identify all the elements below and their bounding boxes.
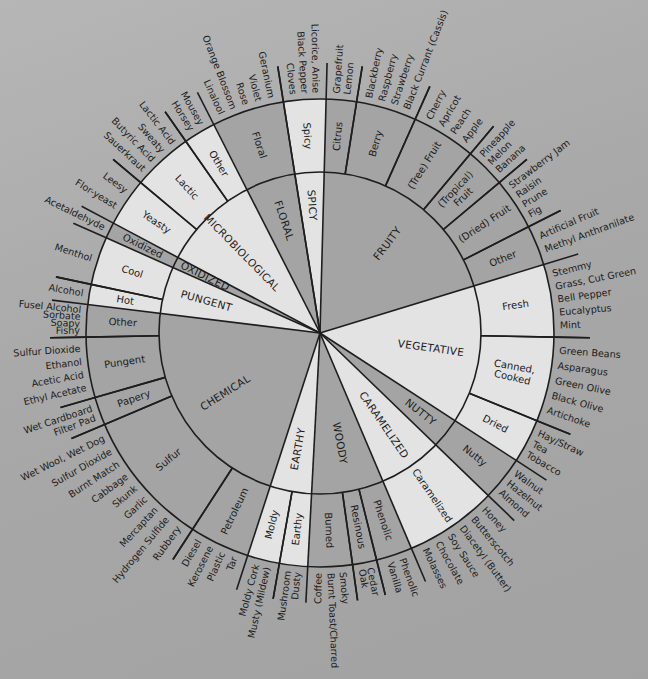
subcategory-label-spicy: Spicy: [301, 122, 314, 150]
aroma-term-licorice-anise: Licorice, Anise: [309, 24, 321, 94]
aroma-term-leesy: Leesy: [101, 170, 130, 195]
aroma-term-coffee: Coffee: [312, 573, 323, 604]
aroma-term-ethanol: Ethanol: [45, 356, 82, 371]
aroma-term-mint: Mint: [560, 319, 581, 331]
aroma-term-cloves: Cloves: [284, 62, 299, 95]
subcategory-label-burned: Burned: [323, 512, 336, 548]
aroma-term-sulfur-dioxide: Sulfur Dioxide: [13, 343, 81, 358]
aroma-term-smoky: Smoky: [337, 571, 351, 604]
term-divider: [50, 337, 86, 338]
aroma-term-green-beans: Green Beans: [559, 345, 621, 360]
aroma-term-asparagus: Asparagus: [557, 360, 609, 378]
term-divider: [357, 66, 363, 102]
aroma-term-alcohol: Alcohol: [48, 282, 84, 299]
aroma-wheel: SPICYSpicyClovesBlack PepperLicorice, An…: [0, 0, 648, 679]
term-divider: [306, 567, 308, 603]
term-divider: [326, 63, 327, 99]
aroma-term-tar: Tar: [224, 555, 240, 573]
subcategory-label-other: Other: [108, 316, 138, 329]
aroma-wheel-canvas: SPICYSpicyClovesBlack PepperLicorice, An…: [0, 0, 648, 679]
term-divider: [278, 66, 284, 102]
aroma-term-eucalyptus: Eucalyptus: [559, 302, 612, 317]
aroma-term-oak: Oak: [357, 568, 371, 589]
aroma-term-lemon: Lemon: [341, 62, 356, 95]
category-label-spicy: SPICY: [306, 189, 320, 221]
term-divider: [554, 337, 590, 338]
aroma-term-burnt-toast-charred: Burnt Toast/Charred: [325, 573, 340, 669]
aroma-term-menthol: Menthol: [53, 241, 93, 263]
